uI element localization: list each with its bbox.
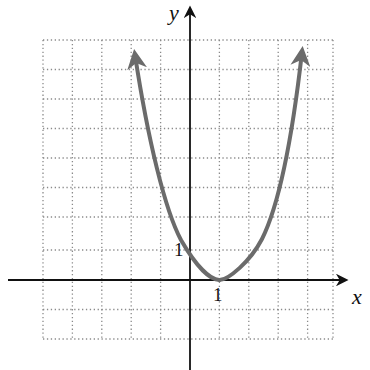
x-tick-label: 1 bbox=[213, 284, 223, 305]
x-axis-label: x bbox=[351, 284, 362, 309]
parabola-graph: y x 1 1 bbox=[0, 0, 370, 370]
parabola-curve bbox=[219, 52, 302, 280]
y-tick-label: 1 bbox=[174, 239, 184, 260]
y-axis-label: y bbox=[167, 0, 179, 25]
grid bbox=[43, 40, 333, 339]
